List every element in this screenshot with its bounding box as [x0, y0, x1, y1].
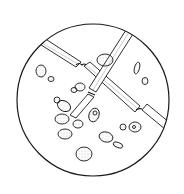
- hypha-diagonal-short: [70, 30, 133, 118]
- microscope-field-circle: [17, 24, 169, 176]
- microscope-field-illustration: [0, 0, 184, 194]
- illustration-canvas: Microscope-field illustration of fungal …: [0, 0, 184, 194]
